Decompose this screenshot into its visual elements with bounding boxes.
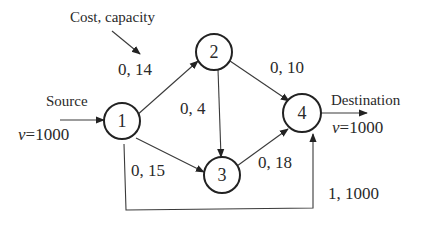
edge-1-2-label: 0, 14 [118,60,153,79]
destination-label: Destination [331,92,401,108]
node-2-label: 2 [210,42,219,62]
edge-2-3 [218,69,221,157]
destination-flow: v=1000 [332,118,383,137]
edge-3-4-label: 0, 18 [258,153,292,172]
edge-1-4-label: 1, 1000 [328,184,379,203]
node-1-label: 1 [118,111,127,131]
node-3-label: 3 [218,165,227,185]
node-2: 2 [196,34,232,70]
node-1: 1 [104,103,140,139]
edge-1-3-label: 0, 15 [131,161,165,180]
destination-flow-value: =1000 [340,118,384,137]
network-flow-diagram: Cost, capacity Source v=1000 Destination… [0,0,430,225]
source-label: Source [46,93,88,109]
node-4: 4 [283,94,321,132]
annotation-label: Cost, capacity [70,9,155,25]
edge-2-4-label: 0, 10 [270,58,304,77]
node-3: 3 [204,157,240,193]
source-flow: v=1000 [18,125,69,144]
edge-2-3-label: 0, 4 [180,99,206,118]
source-flow-value: =1000 [26,125,70,144]
annotation-pointer-arrow [112,31,140,54]
node-4-label: 4 [298,103,307,123]
